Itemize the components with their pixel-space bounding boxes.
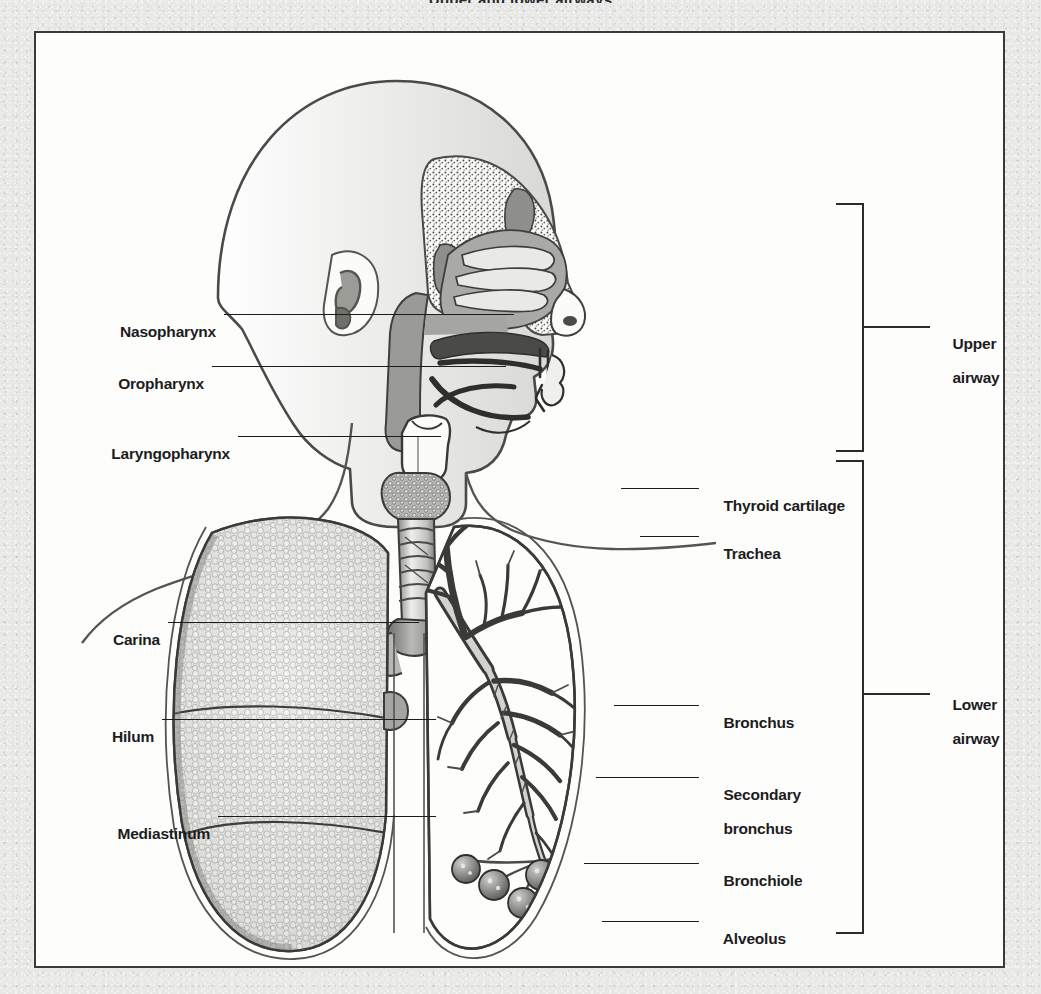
mediastinum xyxy=(394,633,424,933)
leader-trachea xyxy=(640,536,699,537)
label-secondary-bronchus-line1: Secondary xyxy=(723,786,800,803)
bracket-lower-vertical xyxy=(862,460,864,934)
label-hilum-text: Hilum xyxy=(112,728,154,745)
label-laryngopharynx-text: Laryngopharynx xyxy=(111,445,230,462)
leader-hilum xyxy=(162,719,436,720)
label-alveolus-text: Alveolus xyxy=(723,930,786,947)
label-oropharynx: Oropharynx xyxy=(36,358,204,409)
label-trachea: Trachea xyxy=(707,528,781,579)
label-secondary-bronchus-line2: bronchus xyxy=(723,820,792,837)
label-laryngopharynx: Laryngopharynx xyxy=(36,428,230,479)
bracket-lower-top-arm xyxy=(836,460,864,462)
thyroid-gland xyxy=(382,473,450,523)
bracket-upper-bottom-arm xyxy=(836,450,864,452)
label-nasopharynx: Nasopharynx xyxy=(36,306,216,357)
bracket-upper-tick xyxy=(862,326,930,328)
leader-secondary-bronchus xyxy=(596,777,699,778)
bracket-upper-top-arm xyxy=(836,203,864,205)
leader-bronchus xyxy=(614,705,699,706)
figure-title: Upper and lower airways xyxy=(0,0,1041,3)
label-upper-airway: Upper airway xyxy=(936,318,1000,403)
label-carina-text: Carina xyxy=(113,631,160,648)
label-bronchiole: Bronchiole xyxy=(707,855,802,906)
label-mediastinum: Mediastinum xyxy=(36,808,210,859)
label-lower-airway-line2: airway xyxy=(952,730,999,747)
label-trachea-text: Trachea xyxy=(723,545,780,562)
leader-mediastinum xyxy=(218,816,436,817)
label-alveolus: Alveolus xyxy=(707,913,786,964)
label-carina: Carina xyxy=(36,614,160,665)
label-secondary-bronchus: Secondary bronchus xyxy=(707,769,801,854)
label-hilum: Hilum xyxy=(36,711,154,762)
leader-nasopharynx xyxy=(224,314,514,315)
leader-thyroid-cartilage xyxy=(621,488,699,489)
label-bronchus-text: Bronchus xyxy=(723,714,794,731)
leader-laryngopharynx xyxy=(238,436,441,437)
label-upper-airway-line1: Upper xyxy=(952,335,996,352)
label-upper-airway-line2: airway xyxy=(952,369,999,386)
nasal-cavity xyxy=(422,156,586,335)
leader-carina xyxy=(168,622,419,623)
leader-bronchiole xyxy=(584,863,699,864)
label-lower-airway-line1: Lower xyxy=(952,696,997,713)
bracket-lower-bottom-arm xyxy=(836,932,864,934)
label-lower-airway: Lower airway xyxy=(936,679,1000,764)
figure-frame: Nasopharynx Oropharynx Laryngopharynx Ca… xyxy=(34,31,1005,968)
turbinates xyxy=(454,246,556,311)
bracket-lower-tick xyxy=(862,693,930,695)
label-mediastinum-text: Mediastinum xyxy=(117,825,210,842)
label-bronchus: Bronchus xyxy=(707,697,794,748)
left-lung xyxy=(156,493,416,966)
leader-alveolus xyxy=(602,921,699,922)
label-oropharynx-text: Oropharynx xyxy=(118,375,204,392)
leader-oropharynx xyxy=(212,366,506,367)
label-bronchiole-text: Bronchiole xyxy=(723,872,802,889)
label-nasopharynx-text: Nasopharynx xyxy=(120,323,216,340)
